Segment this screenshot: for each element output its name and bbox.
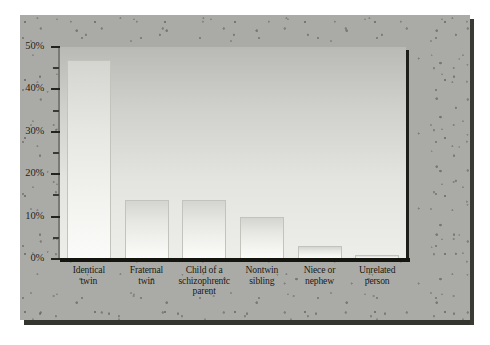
y-tick-minor — [53, 67, 59, 69]
y-tick-minor — [53, 237, 59, 239]
y-tick-major — [51, 131, 60, 133]
x-axis-label-line: Unrelated — [339, 265, 415, 276]
y-tick-major — [51, 216, 60, 218]
y-tick-minor — [53, 194, 59, 196]
y-axis-tick-label: 50% — [10, 40, 44, 51]
chart-page: 50%40%30%20%10%0% IdenticaltwinFraternal… — [0, 0, 490, 345]
plot-area — [60, 47, 406, 259]
bar — [67, 60, 111, 259]
y-axis-tick-label: 20% — [10, 167, 44, 178]
x-axis-label-line: parent — [166, 286, 242, 297]
card-drop-shadow-right — [470, 19, 474, 325]
x-axis-label-line: person — [339, 276, 415, 287]
y-tick-major — [51, 258, 60, 260]
x-axis-baseline — [60, 258, 410, 262]
y-axis-tick-label: 0% — [10, 252, 44, 263]
y-tick-major — [51, 173, 60, 175]
bar — [240, 217, 284, 259]
bar — [125, 200, 169, 259]
y-axis-tick-label: 10% — [10, 210, 44, 221]
y-axis-tick-label: 40% — [10, 82, 44, 93]
y-tick-major — [51, 46, 60, 48]
y-tick-minor — [53, 152, 59, 154]
y-tick-minor — [53, 110, 59, 112]
x-axis-category-label: Unrelatedperson — [339, 265, 415, 286]
bar — [182, 200, 226, 259]
y-axis-tick-label: 30% — [10, 125, 44, 136]
bars-layer — [60, 47, 406, 259]
card-drop-shadow-bottom — [24, 320, 474, 325]
y-tick-major — [51, 88, 60, 90]
